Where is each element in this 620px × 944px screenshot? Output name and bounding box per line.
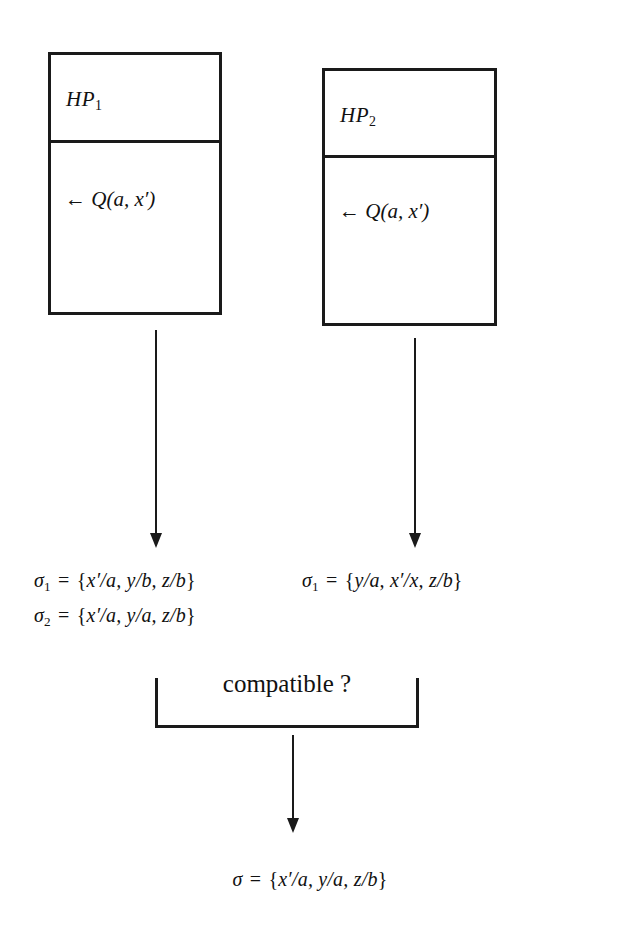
- bindings-text: y/a, x′/x, z/b: [355, 569, 453, 591]
- open-brace: {: [268, 868, 278, 890]
- arrow-head-icon: [409, 533, 421, 548]
- compatible-bracket: compatible ?: [155, 678, 419, 728]
- close-brace: }: [186, 569, 196, 591]
- substitution-sigma1-left: σ1 = {x′/a, y/b, z/b}: [34, 569, 196, 595]
- left-arrow-icon-hp2: ←: [339, 199, 360, 223]
- equals-sign: =: [248, 868, 263, 890]
- box-header-label-hp2: HP2: [340, 103, 376, 130]
- arrow-shaft: [292, 735, 295, 821]
- open-brace: {: [77, 604, 87, 626]
- hp1-goal-text: Q(a, x′): [91, 187, 155, 211]
- hp2-goal-text: Q(a, x′): [365, 199, 429, 223]
- box-header-label-hp1: HP1: [66, 87, 102, 114]
- open-brace: {: [77, 569, 87, 591]
- procedure-box-hp1: HP1 ← Q(a, x′): [48, 52, 222, 315]
- sigma-symbol: σ: [233, 868, 243, 890]
- arrow-head-icon: [287, 818, 299, 833]
- equals-sign: =: [56, 604, 71, 626]
- close-brace: }: [453, 569, 463, 591]
- sigma-subscript: 1: [44, 579, 51, 594]
- hp2-header-subscript: 2: [369, 114, 376, 129]
- compatible-label: compatible ?: [158, 670, 416, 698]
- bindings-text: x′/a, y/a, z/b: [87, 604, 186, 626]
- bindings-text: x′/a, y/b, z/b: [87, 569, 186, 591]
- sigma-subscript: 1: [312, 579, 319, 594]
- arrow-compatible-to-result: [281, 735, 305, 833]
- sigma-symbol: σ: [34, 569, 44, 591]
- substitution-sigma1-right: σ1 = {y/a, x′/x, z/b}: [302, 569, 463, 595]
- open-brace: {: [345, 569, 355, 591]
- close-brace: }: [186, 604, 196, 626]
- hp1-header-text: HP: [66, 87, 95, 111]
- equals-sign: =: [324, 569, 339, 591]
- substitution-sigma2-left: σ2 = {x′/a, y/a, z/b}: [34, 604, 196, 630]
- bindings-text: x′/a, y/a, z/b: [278, 868, 377, 890]
- hp2-header-text: HP: [340, 103, 369, 127]
- substitution-sigma-result: σ = {x′/a, y/a, z/b}: [0, 868, 620, 894]
- arrow-hp2-to-sigma: [403, 338, 427, 548]
- sigma-symbol: σ: [34, 604, 44, 626]
- box-body-label-hp2: ← Q(a, x′): [339, 199, 429, 224]
- left-arrow-icon-hp1: ←: [65, 187, 86, 211]
- box-body-label-hp1: ← Q(a, x′): [65, 187, 155, 212]
- equals-sign: =: [56, 569, 71, 591]
- arrow-shaft: [414, 338, 417, 536]
- box-divider-hp1: [51, 140, 219, 143]
- box-divider-hp2: [325, 155, 494, 158]
- close-brace: }: [378, 868, 388, 890]
- arrow-head-icon: [150, 533, 162, 548]
- arrow-shaft: [155, 330, 158, 536]
- procedure-box-hp2: HP2 ← Q(a, x′): [322, 68, 497, 326]
- sigma-symbol: σ: [302, 569, 312, 591]
- arrow-hp1-to-sigma: [144, 330, 168, 548]
- hp1-header-subscript: 1: [95, 98, 102, 113]
- sigma-subscript: 2: [44, 614, 51, 629]
- diagram-canvas: HP1 ← Q(a, x′) HP2 ← Q(a, x′) σ1 = {x′/a…: [0, 0, 620, 944]
